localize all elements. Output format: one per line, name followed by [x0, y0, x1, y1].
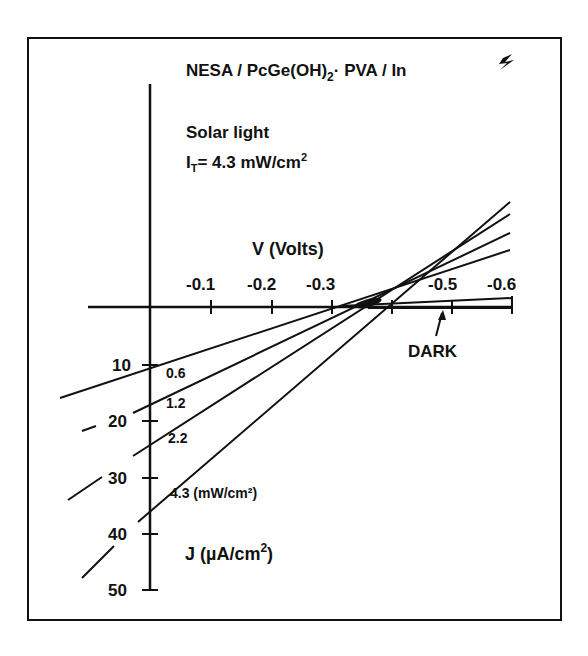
- illumination-label: Solar light: [186, 123, 269, 142]
- y-tick-label: 30: [108, 469, 127, 488]
- y-tick-label: 20: [108, 412, 127, 431]
- dark-label: DARK: [408, 342, 458, 361]
- iv-chart: NESA / PcGe(OH)2· PVA / In Solar light I…: [0, 0, 588, 656]
- x-tick-label: -0.1: [186, 275, 215, 294]
- y-tick-label: 50: [108, 581, 127, 600]
- x-tick-label: -0.3: [306, 275, 335, 294]
- electrode-bolt-icon: [499, 54, 514, 70]
- dark-arrowhead-icon: [438, 310, 446, 320]
- y-tick-label: 40: [108, 525, 127, 544]
- curve-label-2.2: 2.2: [168, 430, 188, 446]
- y-tick-label: 10: [112, 356, 131, 375]
- curve-1.2: [82, 233, 510, 431]
- x-tick-label: -0.5: [428, 275, 457, 294]
- x-axis-label: V (Volts): [252, 239, 324, 259]
- curve-0.6: [60, 250, 510, 398]
- curve-label-0.6: 0.6: [166, 365, 186, 381]
- curve-label-4.3: 4.3 (mW/cm²): [170, 485, 257, 501]
- curve-label-1.2: 1.2: [166, 395, 186, 411]
- intensity-label: IT= 4.3 mW/cm2: [186, 151, 307, 174]
- x-tick-label: -0.6: [487, 275, 516, 294]
- x-tick-label: -0.2: [247, 275, 276, 294]
- chart-title: NESA / PcGe(OH)2· PVA / In: [186, 61, 407, 84]
- y-axis-label: J (µA/cm2): [185, 541, 273, 564]
